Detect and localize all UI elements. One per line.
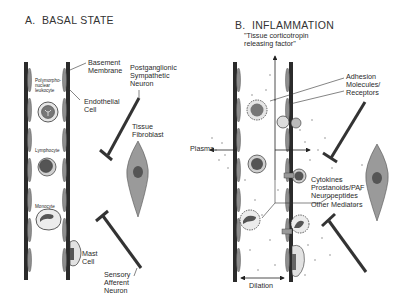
label-monocyte: Monocyte bbox=[35, 204, 55, 209]
pmn-cell bbox=[38, 102, 58, 122]
label-plasma: Plasma bbox=[190, 145, 214, 153]
label-sympathetic-neuron: Postganglionic Sympathetic Neuron bbox=[130, 64, 177, 89]
label-crf: "Tissue corticotropin releasing factor" bbox=[244, 32, 309, 48]
sympathetic-neuron-b bbox=[323, 102, 365, 162]
fibroblast-b bbox=[366, 144, 389, 221]
mast-cell-b bbox=[292, 245, 304, 276]
label-basement-membrane: Basement Membrane bbox=[88, 59, 122, 75]
pmn-cell-b bbox=[247, 100, 267, 120]
label-mediators: Cytokines Prostanoids/PAF Neuropeptides … bbox=[311, 176, 364, 209]
label-endothelial-cell: Endothelial Cell bbox=[84, 98, 120, 114]
label-tissue-fibroblast: Tissue Fibroblast bbox=[132, 123, 164, 139]
panel-b-title: B. INFLAMMATION bbox=[235, 19, 334, 31]
lymphocyte-cell-b bbox=[248, 155, 266, 173]
sensory-neuron-b bbox=[322, 214, 366, 272]
fibroblast-a bbox=[127, 141, 149, 217]
label-mast-cell: Mast Cell bbox=[82, 250, 98, 266]
monocyte-cell-b bbox=[240, 210, 260, 230]
label-adhesion-molecules: Adhesion Molecules/ Receptors bbox=[346, 73, 380, 98]
label-dilation: Dilation bbox=[249, 282, 273, 290]
lymphocyte-cell bbox=[38, 158, 56, 176]
panel-a-title: A. BASAL STATE bbox=[25, 14, 114, 26]
sensory-neuron-a bbox=[96, 211, 141, 268]
label-sensory-neuron: Sensory Afferent Neuron bbox=[104, 271, 130, 296]
inflamed-vessel bbox=[233, 62, 293, 282]
label-pmn: Polymorpho- nuclear leukocyte bbox=[35, 78, 61, 94]
label-lymphocyte: Lymphocyte bbox=[35, 148, 60, 153]
mast-cell bbox=[70, 241, 81, 266]
monocyte-cell bbox=[36, 209, 61, 230]
